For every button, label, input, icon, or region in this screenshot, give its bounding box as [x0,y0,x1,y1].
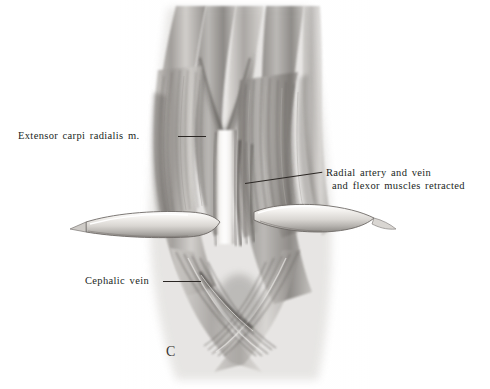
leader-line-extensor-carpi-radialis [178,136,206,137]
label-radial-artery-and-vein: Radial artery and vein and flexor muscle… [326,166,465,192]
label-cephalic-vein-text: Cephalic vein [85,275,149,286]
figure-panel: Extensor carpi radialis m. Radial artery… [0,0,490,389]
forearm-body [120,0,370,389]
label-radial-artery-line2: and flexor muscles retracted [326,179,465,192]
label-cephalic-vein: Cephalic vein [85,274,149,287]
leader-line-cephalic-vein [163,281,201,282]
retractor-band-left [70,211,220,237]
figure-letter: C [166,344,176,360]
label-extensor-carpi-radialis-text: Extensor carpi radialis m. [18,130,139,141]
illustration-canvas [0,0,490,389]
anatomical-illustration [0,0,490,389]
label-extensor-carpi-radialis: Extensor carpi radialis m. [18,129,139,142]
label-radial-artery-line1: Radial artery and vein [326,166,465,179]
